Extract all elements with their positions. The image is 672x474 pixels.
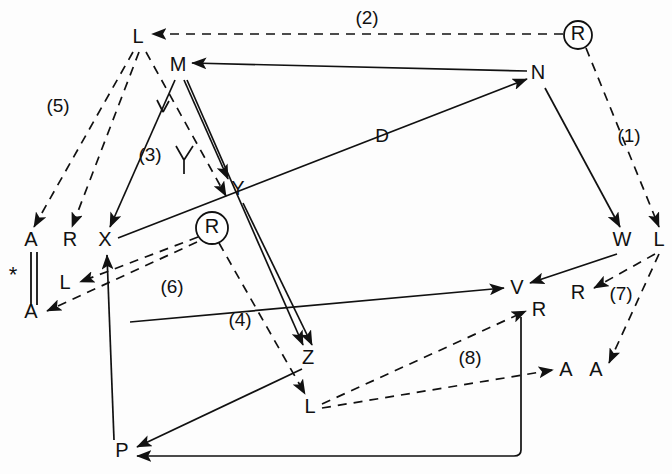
edge-layer [31,34,659,456]
edge-l-bottom-to-r-v[interactable] [322,311,526,404]
node-l-left: L [59,271,70,293]
edge-label-2: (2) [355,7,378,28]
edge-r-v-to-p[interactable] [137,317,521,456]
edge-l-top-to-r-left[interactable] [72,52,139,227]
edge-n-to-m[interactable] [192,63,527,71]
edge-l-right-to-a-right[interactable] [609,254,659,363]
node-x: X [98,228,111,250]
node-w: W [613,228,632,250]
graph-diagram-svg: L M R N Y R A R X W L L A V R R Z A A L … [0,0,672,474]
node-a-right2: A [589,358,603,380]
node-a-left2: A [559,358,573,380]
node-y: Y [231,177,244,199]
edge-m-to-y[interactable] [184,80,228,179]
node-r-right: R [571,281,585,303]
node-v: V [510,276,524,298]
diagram-canvas: L M R N Y R A R X W L L A V R R Z A A L … [0,0,672,474]
edge-label-d: D [375,125,389,146]
edge-p-to-x[interactable] [107,255,114,440]
edge-label-4: (4) [228,309,251,330]
edge-label-1: (1) [617,125,640,146]
node-r-mid: R [205,215,219,237]
node-a-lower: A [24,300,38,322]
edge-z-to-v[interactable] [130,288,504,322]
edge-y-to-z[interactable] [243,203,312,345]
edge-label-7: (7) [609,283,632,304]
edge-label-6: (6) [160,276,183,297]
node-n: N [531,61,545,83]
node-m: M [170,53,187,75]
node-p: P [115,439,128,461]
edge-n-to-w[interactable] [545,88,620,227]
edge-z-to-p[interactable] [137,369,302,447]
node-z: Z [302,346,314,368]
edge-label-8: (8) [458,347,481,368]
ring-layer [196,21,592,244]
edge-m-to-z[interactable] [187,80,303,345]
node-l-bottom: L [304,395,315,417]
node-r-left: R [63,228,77,250]
edge-l-top-to-a-upper[interactable] [34,52,133,227]
asterisk-mark: * [9,262,18,287]
node-label-layer: L M R N Y R A R X W L L A V R R Z A A L … [24,22,664,461]
edge-x-to-n[interactable] [118,79,527,238]
edge-w-to-v[interactable] [530,254,617,283]
node-r-v: R [532,298,546,320]
edge-label-3: (3) [138,144,161,165]
node-l-right: L [653,228,664,250]
edge-label-5: (5) [46,95,69,116]
node-l-top: L [132,25,143,47]
node-r-top: R [571,22,585,44]
node-a-upper: A [24,228,38,250]
y-mark-glyph [176,146,193,174]
